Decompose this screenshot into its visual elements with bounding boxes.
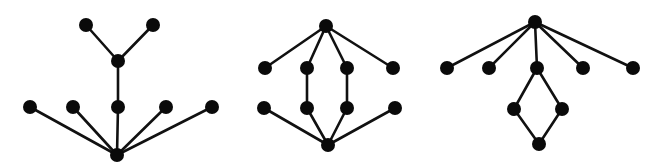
node-r1 [23, 100, 37, 114]
node-r4 [159, 100, 173, 114]
diagram-2-lattice [257, 19, 402, 152]
edge-a2-m [118, 25, 153, 61]
node-u3 [340, 61, 354, 75]
edge-r2-b [73, 107, 117, 155]
edge-r5-b [117, 107, 212, 155]
node-l2 [300, 101, 314, 115]
node-t [528, 15, 542, 29]
edge-a1-m [86, 25, 118, 61]
edge-c3-d1 [514, 68, 537, 109]
node-r5 [205, 100, 219, 114]
node-u1 [258, 61, 272, 75]
node-m [111, 54, 125, 68]
node-l4 [388, 101, 402, 115]
diagram-1-tree [23, 18, 219, 162]
node-c5 [626, 61, 640, 75]
node-b [321, 138, 335, 152]
node-c1 [440, 61, 454, 75]
edge-r4-b [117, 107, 166, 155]
edge-c3-d2 [537, 68, 562, 109]
node-c2 [482, 61, 496, 75]
node-r3 [111, 100, 125, 114]
node-d1 [507, 102, 521, 116]
node-r2 [66, 100, 80, 114]
node-t [319, 19, 333, 33]
node-c4 [576, 61, 590, 75]
node-u2 [300, 61, 314, 75]
node-c3 [530, 61, 544, 75]
node-d2 [555, 102, 569, 116]
edge-t-c4 [535, 22, 583, 68]
node-b [110, 148, 124, 162]
node-a1 [79, 18, 93, 32]
edge-r1-b [30, 107, 117, 155]
edge-r3-b [117, 107, 118, 155]
node-a2 [146, 18, 160, 32]
edge-t-c2 [489, 22, 535, 68]
node-u4 [386, 61, 400, 75]
node-b [532, 137, 546, 151]
node-l1 [257, 101, 271, 115]
edge-t-c1 [447, 22, 535, 68]
diagram-3-fan-diamond [440, 15, 640, 151]
graph-diagrams-canvas [0, 0, 668, 167]
node-l3 [340, 101, 354, 115]
